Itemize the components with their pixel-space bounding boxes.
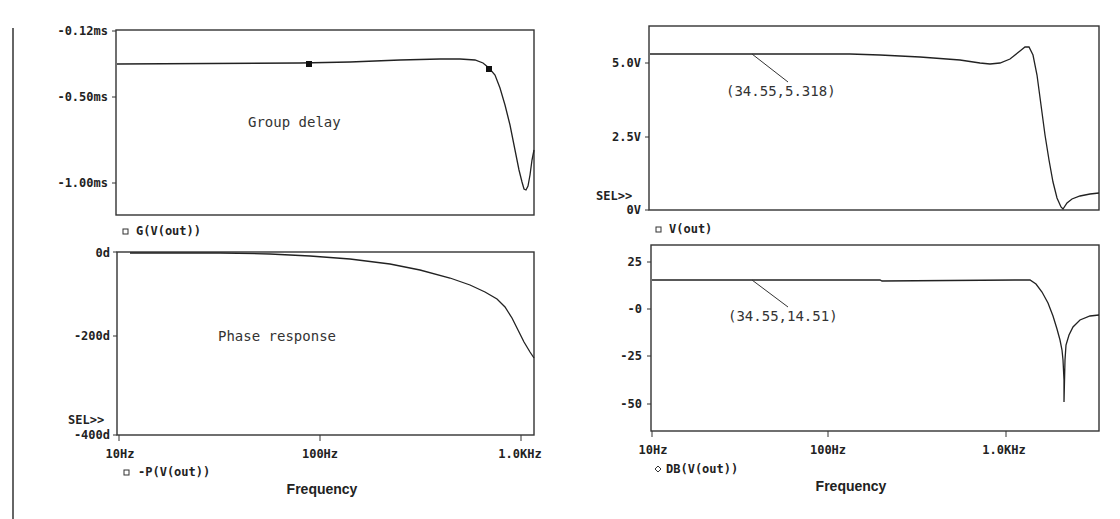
y-tick-label: -400d [74,428,110,442]
sel-marker[interactable]: SEL>> [68,413,104,427]
x-tick-label: 10Hz [639,443,668,457]
y-tick-label: -25 [620,349,642,363]
left-window: -0.12ms -0.50ms -1.00ms Group delay G(V(… [57,24,541,497]
y-tick-label: -200d [74,329,110,343]
cursor-readout: (34.55,14.51) [728,308,838,324]
x-axis-title: Frequency [287,481,358,497]
x-tick-label: 1.0KHz [498,447,541,461]
figure-root: -0.12ms -0.50ms -1.00ms Group delay G(V(… [0,0,1120,519]
x-tick-label: 100Hz [810,443,846,457]
vout-curve [650,47,1099,209]
cursor-readout: (34.55,5.318) [726,83,836,99]
trace-label[interactable]: DB(V(out)) [666,462,738,476]
plot-annotation: Phase response [218,328,336,344]
trace-marker-square [306,61,312,67]
x-axis-title: Frequency [816,478,887,494]
phase-response-plot[interactable]: 0d -200d -400d SEL>> Phase response 10Hz… [68,246,542,497]
cursor-leader-line [752,54,788,82]
y-tick-label: 25 [628,255,642,269]
y-tick-label: -1.00ms [57,176,108,190]
trace-label[interactable]: G(V(out)) [136,224,201,238]
plot-frame [651,245,1099,431]
trace-marker-square-icon [124,470,129,475]
plot-annotation: Group delay [248,114,341,130]
vout-plot[interactable]: 5.0V 2.5V 0V SEL>> (34.55,5.318) V(out) [596,26,1099,236]
sel-marker[interactable]: SEL>> [596,189,632,203]
trace-marker-square [486,66,492,72]
x-tick-label: 10Hz [106,447,135,461]
right-window: 5.0V 2.5V 0V SEL>> (34.55,5.318) V(out) … [596,26,1099,494]
trace-label[interactable]: -P(V(out)) [138,465,210,479]
x-tick-label: 100Hz [302,447,338,461]
trace-marker-square-icon [123,229,128,234]
y-tick-label: -0.12ms [57,24,108,38]
db-vout-plot[interactable]: 25 -0 -25 -50 (34.55,14.51) 10Hz 100Hz 1… [620,245,1099,494]
y-tick-label: 0V [627,203,641,217]
trace-label[interactable]: V(out) [669,222,712,236]
y-tick-label: -50 [620,397,642,411]
y-tick-label: 2.5V [612,130,641,144]
cursor-leader-line [752,280,788,307]
figure-canvas: -0.12ms -0.50ms -1.00ms Group delay G(V(… [0,0,1120,519]
trace-marker-diamond-icon [655,466,661,472]
y-tick-label: 5.0V [612,56,641,70]
y-tick-label: -0.50ms [57,90,108,104]
db-curve [652,280,1099,402]
group-delay-plot[interactable]: -0.12ms -0.50ms -1.00ms Group delay G(V(… [57,24,534,238]
trace-marker-square-icon [656,227,661,232]
y-tick-label: -0 [628,302,642,316]
y-tick-label: 0d [96,246,110,260]
x-tick-label: 1.0KHz [982,443,1025,457]
